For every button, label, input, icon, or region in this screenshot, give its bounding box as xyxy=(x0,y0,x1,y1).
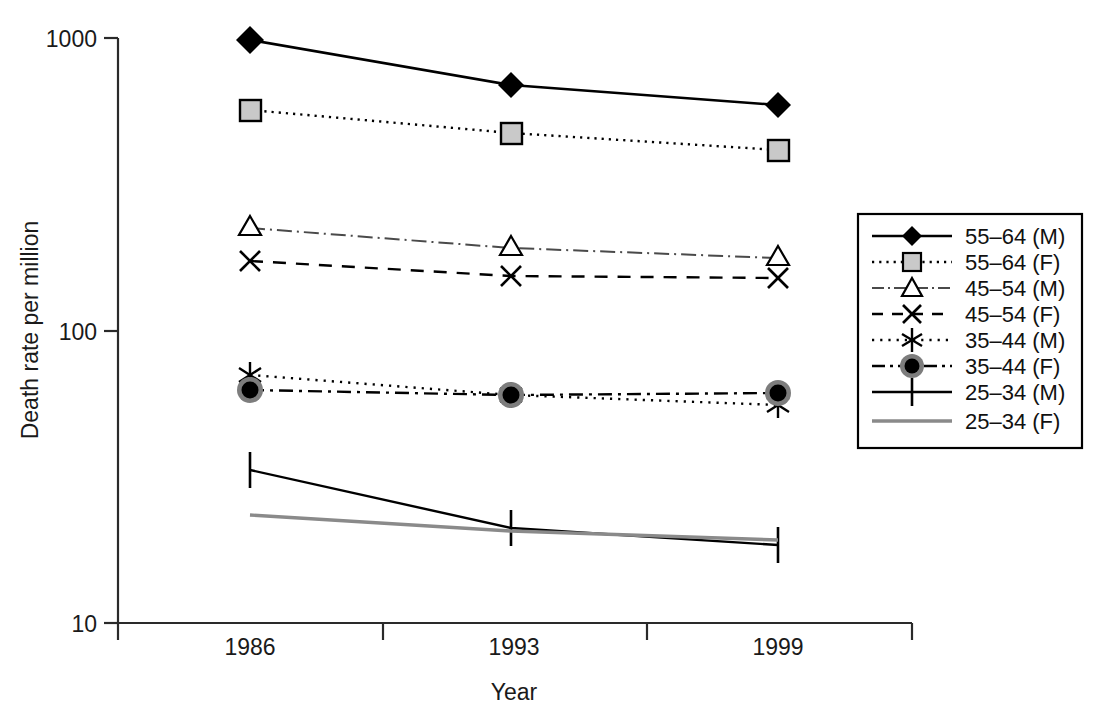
series-55-64-m xyxy=(236,26,791,118)
marker-open-triangle xyxy=(500,236,522,255)
y-tick-label-10: 10 xyxy=(71,611,97,637)
legend-label: 45–54 (F) xyxy=(965,302,1060,327)
line-chart: 1000 100 10 Death rate per million 1986 … xyxy=(0,0,1110,723)
marker-filled-circle xyxy=(498,382,524,408)
legend-label: 55–64 (F) xyxy=(965,250,1060,275)
marker-gray-square xyxy=(501,123,522,144)
marker-gray-square xyxy=(240,100,261,121)
x-tick-label-1986: 1986 xyxy=(224,634,275,660)
legend: 55–64 (M) 55–64 (F) 45–54 (M) 45–54 (F) xyxy=(858,214,1082,448)
marker-filled-circle xyxy=(237,377,263,403)
y-axis-title: Death rate per million xyxy=(17,221,43,440)
legend-label: 25–34 (M) xyxy=(965,380,1065,405)
series-35-44-f xyxy=(237,377,791,408)
y-tick-label-1000: 1000 xyxy=(46,26,97,52)
y-axis: 1000 100 10 Death rate per million xyxy=(17,26,118,637)
x-axis-title: Year xyxy=(491,679,538,705)
x-tick-label-1999: 1999 xyxy=(752,634,803,660)
x-tick-label-1993: 1993 xyxy=(488,634,539,660)
filled-circle-icon xyxy=(900,354,924,378)
gray-square-icon xyxy=(903,253,921,271)
legend-label: 45–54 (M) xyxy=(965,276,1065,301)
x-axis: 1986 1993 1999 Year xyxy=(118,623,912,705)
marker-gray-square xyxy=(768,140,789,161)
chart-container: 1000 100 10 Death rate per million 1986 … xyxy=(0,0,1110,723)
marker-cross-x xyxy=(768,268,788,288)
legend-label: 55–64 (M) xyxy=(965,224,1065,249)
marker-filled-diamond xyxy=(765,92,791,118)
marker-open-triangle xyxy=(239,216,261,235)
series-45-54-m xyxy=(239,216,789,265)
marker-filled-circle xyxy=(765,380,791,406)
y-tick-label-100: 100 xyxy=(59,319,97,345)
series-45-54-f xyxy=(240,251,788,288)
marker-filled-diamond xyxy=(498,72,524,98)
legend-label: 25–34 (F) xyxy=(965,409,1060,434)
legend-label: 35–44 (M) xyxy=(965,328,1065,353)
marker-open-triangle xyxy=(767,246,789,265)
series-25-34-m xyxy=(250,452,778,563)
series-55-64-f xyxy=(240,100,789,161)
marker-filled-diamond xyxy=(236,26,264,54)
legend-label: 35–44 (F) xyxy=(965,354,1060,379)
